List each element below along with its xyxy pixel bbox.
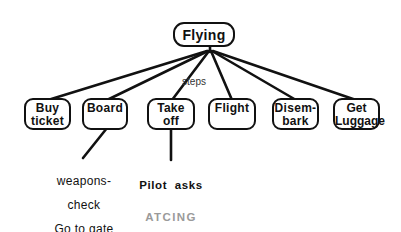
node-flying: Flying bbox=[173, 22, 235, 47]
board-note-go-to-gate: Go to gate bbox=[44, 223, 124, 232]
board-notes: weapons- check Go to gate Wait bbox=[44, 163, 124, 232]
edge-board-notes bbox=[83, 128, 107, 158]
edge-label-steps: steps bbox=[176, 76, 212, 87]
takeoff-notes: Pilot asks ATCING ATC grants bbox=[126, 161, 216, 232]
node-buy-ticket: Buy ticket bbox=[24, 98, 71, 130]
node-get-luggage: Get Luggage bbox=[333, 98, 380, 130]
board-note-check: check bbox=[44, 199, 124, 211]
edge-root-flight bbox=[211, 51, 232, 100]
node-disembark: Disem- bark bbox=[272, 98, 319, 130]
takeoff-note-atcing: ATCING bbox=[126, 209, 216, 225]
node-flight: Flight bbox=[208, 98, 256, 130]
takeoff-note-pilot-asks: Pilot asks bbox=[126, 177, 216, 193]
node-board: Board bbox=[82, 98, 128, 130]
node-take-off: Take off bbox=[147, 98, 195, 130]
board-note-weapons: weapons- bbox=[44, 175, 124, 187]
